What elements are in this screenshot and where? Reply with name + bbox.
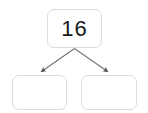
connector-arrow-right <box>75 49 108 72</box>
whole-number-value: 16 <box>61 18 87 40</box>
whole-number-box[interactable]: 16 <box>47 9 102 48</box>
part-box-left[interactable] <box>12 75 67 110</box>
number-bond-diagram: 16 <box>0 0 148 113</box>
part-box-right[interactable] <box>81 75 137 110</box>
connector-arrow-left <box>42 49 75 72</box>
